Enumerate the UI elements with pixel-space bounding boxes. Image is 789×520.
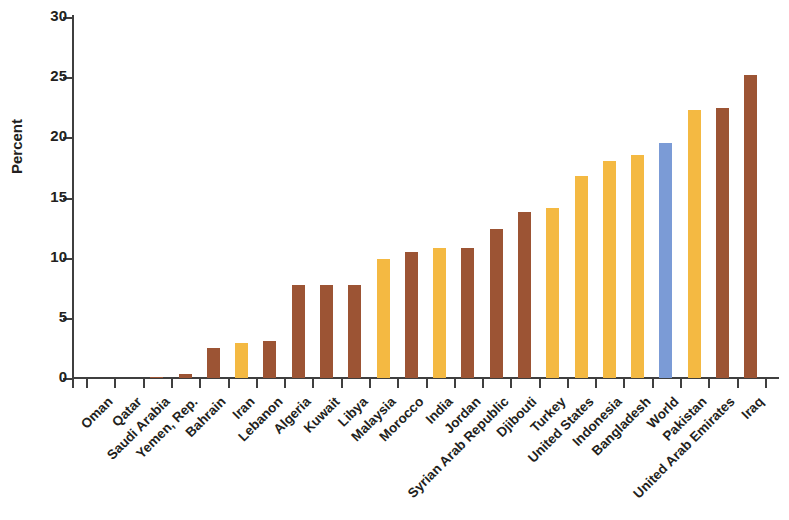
bar: [405, 252, 418, 378]
y-tick-label: 10: [50, 248, 67, 266]
bar: [603, 161, 616, 378]
y-tick-label: 20: [50, 127, 67, 145]
bar: [263, 341, 276, 378]
y-axis-title: Percent: [8, 54, 32, 174]
bar: [744, 75, 757, 378]
y-tick-label: 0: [59, 368, 67, 386]
y-tick-label: 25: [50, 67, 67, 85]
bar: [716, 108, 729, 378]
y-tick-label: 5: [59, 308, 67, 326]
y-tick-label: 30: [50, 7, 67, 25]
bar: [348, 285, 361, 378]
bar: [377, 259, 390, 378]
bar: [433, 248, 446, 378]
bar: [490, 229, 503, 378]
bar-chart: Percent 051015202530 OmanQatarSaudi Arab…: [0, 0, 789, 520]
bar: [518, 212, 531, 378]
x-tick-mark: [86, 378, 88, 388]
bar: [292, 285, 305, 378]
bar: [659, 143, 672, 378]
bar: [688, 110, 701, 378]
plot-area: 051015202530: [72, 17, 779, 378]
bar: [461, 248, 474, 378]
y-tick-label: 15: [50, 188, 67, 206]
bar: [575, 176, 588, 378]
x-tick-mark: [72, 378, 74, 388]
